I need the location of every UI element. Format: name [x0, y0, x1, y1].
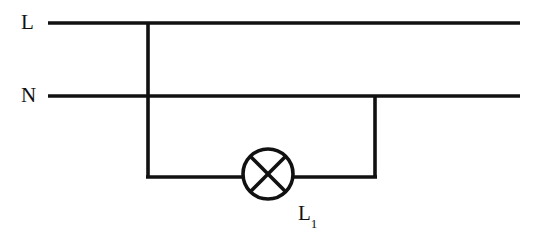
- circuit-schematic: [0, 0, 539, 242]
- lamp-label-subscript: 1: [311, 216, 318, 231]
- lamp-label-base: L: [298, 201, 311, 225]
- neutral-rail-label: N: [21, 85, 36, 106]
- live-rail-label: L: [21, 12, 34, 33]
- circuit-diagram-canvas: L N L1: [0, 0, 539, 242]
- lamp-label: L1: [298, 203, 317, 227]
- lamp-symbol: [243, 149, 293, 199]
